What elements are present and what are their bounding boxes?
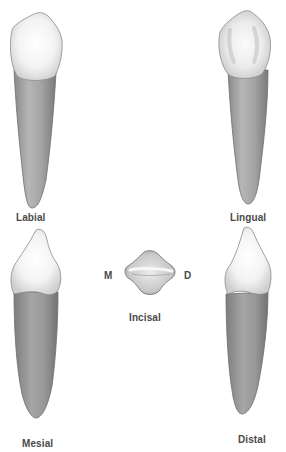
lingual-tooth-illustration bbox=[206, 0, 286, 215]
mesial-tooth-illustration bbox=[0, 226, 80, 426]
labial-tooth-illustration bbox=[0, 0, 80, 215]
incisal-view: M D Incisal bbox=[100, 250, 200, 330]
distal-marker: D bbox=[184, 270, 191, 281]
incisal-label: Incisal bbox=[129, 312, 161, 323]
labial-view: Labial bbox=[0, 0, 80, 215]
lingual-label: Lingual bbox=[230, 212, 266, 223]
mesial-label: Mesial bbox=[22, 438, 53, 449]
incisal-tooth-illustration bbox=[122, 250, 178, 296]
distal-tooth-illustration bbox=[206, 226, 286, 426]
mesial-view: Mesial bbox=[0, 226, 80, 452]
distal-label: Distal bbox=[238, 434, 266, 445]
distal-view: Distal bbox=[206, 226, 286, 452]
lingual-view: Lingual bbox=[206, 0, 286, 215]
mesial-marker: M bbox=[104, 270, 112, 281]
labial-label: Labial bbox=[16, 212, 46, 223]
